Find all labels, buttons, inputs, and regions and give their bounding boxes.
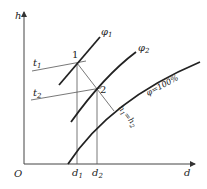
isotherm-t2 xyxy=(31,88,101,100)
point-2-label: 2 xyxy=(100,84,106,95)
curve-phi1 xyxy=(59,37,100,85)
h-d-diagram: h d O d1 d2 t1 t2 φ1 φ2 φ=100% h1=h2 1 2 xyxy=(0,0,207,189)
label-phi100: φ=100% xyxy=(145,73,181,98)
tick-d2: d2 xyxy=(92,167,103,180)
label-phi2: φ2 xyxy=(138,42,150,55)
point-1-label: 1 xyxy=(72,49,78,60)
label-h1-eq-h2: h1=h2 xyxy=(116,104,139,130)
isenthalpic-line xyxy=(77,63,114,111)
origin-label: O xyxy=(14,168,22,179)
label-phi1: φ1 xyxy=(101,26,112,39)
tick-d1: d1 xyxy=(72,167,83,180)
label-t2: t2 xyxy=(33,87,42,100)
y-axis-label: h xyxy=(15,10,21,21)
x-axis-label: d xyxy=(184,167,190,178)
label-t1: t1 xyxy=(33,57,42,70)
